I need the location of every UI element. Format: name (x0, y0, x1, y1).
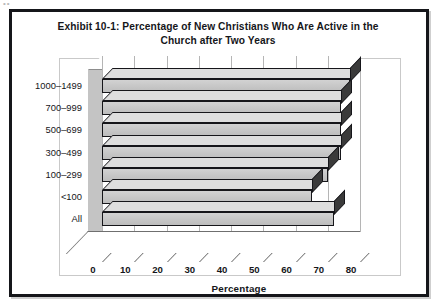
y-tick-label: 500–699 (0, 124, 82, 136)
chart-side-wall (88, 69, 103, 231)
x-tick-mark (360, 253, 370, 262)
x-tick-mark (231, 253, 241, 262)
x-tick-label: 10 (112, 264, 138, 275)
x-tick-mark (199, 253, 209, 262)
x-tick-label: 50 (241, 264, 267, 275)
x-axis-title: Percentage (88, 283, 390, 294)
y-tick-label: All (0, 213, 82, 225)
y-tick-label: 100–299 (0, 169, 82, 181)
bar-top-face (102, 135, 351, 146)
bar-top-face (102, 112, 351, 123)
x-tick-mark (328, 253, 338, 262)
x-tick-mark (296, 253, 306, 262)
bar-top-face (102, 157, 338, 168)
gridline-80 (360, 56, 361, 231)
x-tick-label: 0 (80, 264, 106, 275)
x-tick-mark (102, 253, 112, 262)
x-tick-label: 70 (306, 264, 332, 275)
figure-title: Exhibit 10-1: Percentage of New Christia… (38, 20, 398, 47)
y-axis-tick-labels: 1000–1499700–999500–699300–499100–299<10… (0, 79, 82, 265)
x-tick-label: 80 (338, 264, 364, 275)
x-tick-label: 40 (209, 264, 235, 275)
bar-all (102, 212, 334, 226)
bar-front-face (102, 212, 334, 226)
plot-area-frame: Average Attendance 1000–1499700–999500–6… (59, 58, 401, 276)
y-tick-label: 700–999 (0, 102, 82, 114)
x-tick-mark (134, 253, 144, 262)
figure-border: Exhibit 10-1: Percentage of New Christia… (9, 9, 429, 297)
x-tick-label: 30 (177, 264, 203, 275)
bar-top-face (102, 68, 361, 79)
figure-title-line-2: Church after Two Years (160, 35, 275, 46)
x-tick-mark (263, 253, 273, 262)
chart-floor (66, 231, 361, 254)
bar-top-face (102, 201, 345, 212)
bar-top-face (102, 179, 322, 190)
x-axis: Percentage 01020304050607080 (88, 253, 390, 293)
bar-chart-3d: 1000–1499700–999500–699300–499100–299<10… (88, 69, 390, 265)
y-tick-label: <100 (0, 191, 82, 203)
y-tick-label: 300–499 (0, 147, 82, 159)
x-tick-label: 60 (274, 264, 300, 275)
scan-artifact: •• (3, 0, 19, 7)
bar-top-face (102, 90, 351, 101)
x-tick-label: 20 (145, 264, 171, 275)
figure-title-line-1: Exhibit 10-1: Percentage of New Christia… (58, 21, 379, 32)
x-tick-mark (167, 253, 177, 262)
y-tick-label: 1000–1499 (0, 80, 82, 92)
